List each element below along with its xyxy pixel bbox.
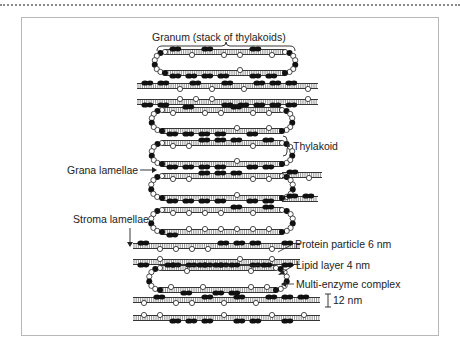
label-multi-enzyme-complex: Multi-enzyme complex (296, 278, 400, 290)
label-grana-lamellae: Grana lamellae (67, 164, 138, 176)
label-protein-particle: Protein particle 6 nm (295, 238, 391, 250)
label-stroma-lamellae: Stroma lamellae (73, 213, 149, 225)
label-lipid-layer: Lipid layer 4 nm (296, 259, 370, 271)
label-granum: Granum (stack of thylakoids) (152, 31, 286, 43)
thylakoid-diagram (0, 0, 460, 354)
label-thylakoid: Thylakoid (293, 140, 338, 152)
label-12nm: 12 nm (333, 294, 362, 306)
